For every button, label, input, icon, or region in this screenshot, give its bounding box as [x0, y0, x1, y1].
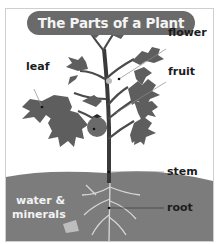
- main-stem: [104, 49, 109, 183]
- label-water: water &: [16, 195, 65, 207]
- diagram-card: The Parts of a Plant leaf flower fruit s…: [5, 8, 214, 242]
- label-stem: stem: [167, 166, 198, 178]
- label-fruit: fruit: [168, 66, 195, 78]
- label-root: root: [167, 202, 193, 214]
- label-leaf: leaf: [26, 61, 49, 73]
- label-minerals: minerals: [12, 209, 66, 221]
- flower-bud: [106, 78, 112, 84]
- fruit-tomato: [87, 117, 107, 137]
- label-flower: flower: [168, 27, 207, 39]
